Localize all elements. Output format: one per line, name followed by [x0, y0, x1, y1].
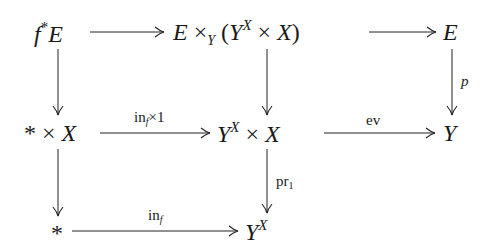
label-center-lower-arrow: pr1 [276, 174, 294, 191]
label-times-one: ×1 [148, 109, 164, 125]
superscript-X: X [230, 119, 239, 135]
node-mapping-times-x: YX × X [217, 120, 280, 146]
symbol-Y: Y [443, 120, 456, 146]
label-mid-right-arrow: ev [366, 113, 380, 128]
times-symbol: × [258, 19, 272, 45]
symbol-E: E [48, 21, 63, 47]
label-pr: pr [276, 173, 289, 189]
commutative-diagram: f*E E ×Y (YX × X) E * × X YX × X Y * YX … [0, 0, 492, 251]
symbol-Y: Y [245, 219, 258, 245]
star-symbol: * [24, 120, 36, 146]
symbol-E: E [173, 19, 188, 45]
label-right-arrow: p [461, 74, 469, 89]
node-point: * [51, 221, 63, 245]
label-p: p [461, 73, 469, 89]
label-in: in [148, 207, 160, 223]
open-paren: ( [221, 19, 229, 45]
symbol-Y: Y [229, 19, 242, 45]
symbol-X: X [62, 120, 77, 146]
times-symbol: × [194, 19, 208, 45]
symbol-E: E [443, 19, 458, 45]
symbol-f: f [34, 21, 41, 47]
node-fiber-product: E ×Y (YX × X) [173, 18, 300, 48]
node-point-times-x: * × X [24, 121, 76, 145]
node-base-space: Y [443, 121, 456, 145]
label-bottom-arrow: inf [148, 208, 162, 225]
label-in: in [134, 109, 146, 125]
label-ev: ev [366, 112, 380, 128]
superscript-X: X [258, 217, 267, 233]
label-sub-f: f [160, 214, 163, 225]
node-mapping-space: YX [245, 218, 268, 244]
node-pullback: f*E [34, 20, 63, 46]
symbol-X: X [277, 19, 292, 45]
symbol-X: X [265, 121, 280, 147]
superscript-X: X [242, 17, 251, 33]
symbol-Y: Y [217, 121, 230, 147]
node-total-space: E [443, 20, 458, 44]
times-symbol: × [42, 120, 56, 146]
label-sub-1: 1 [289, 180, 294, 191]
close-paren: ) [292, 19, 300, 45]
subscript-Y: Y [207, 33, 215, 48]
times-symbol: × [246, 121, 260, 147]
label-mid-left-arrow: inf×1 [134, 110, 164, 127]
star-symbol: * [51, 220, 63, 246]
